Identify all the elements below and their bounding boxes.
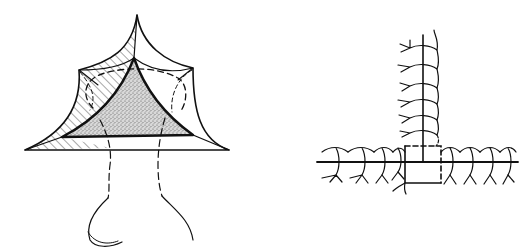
diagram-stage — [0, 0, 522, 249]
tent-structure-figure — [25, 15, 229, 246]
box-root-fork — [393, 183, 406, 194]
vertical-segments — [398, 30, 439, 146]
left-horizontal-segments — [322, 148, 405, 184]
stalk-right-curve — [162, 196, 193, 240]
diagram-canvas — [0, 0, 522, 249]
right-horizontal-segments — [441, 148, 516, 185]
branching-axis-figure — [317, 30, 518, 194]
stalk-hook — [88, 232, 118, 243]
